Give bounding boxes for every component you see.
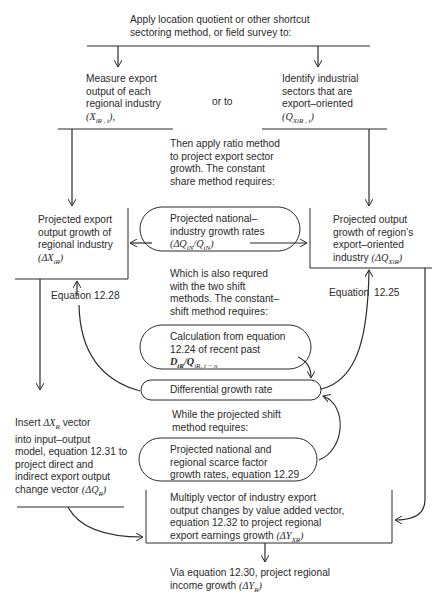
top-instruction: Apply location quotient or other shortcu… — [130, 14, 310, 39]
symbol-delta-q-xir: (ΔQXiR) — [372, 252, 403, 263]
measure-export-text: Measure export output of each regional i… — [86, 73, 161, 127]
curve-io-to-multiply — [68, 507, 143, 537]
multiply-box-text: Multiply vector of industry export outpu… — [170, 492, 344, 546]
ratio-method-text: Then apply ratio method to project expor… — [170, 138, 280, 188]
income-growth-text: Via equation 12.30, project regional inc… — [170, 567, 330, 596]
symbol-delta-x-r: ΔXR — [43, 417, 59, 428]
left-box-text: Projected export output growth of region… — [38, 214, 113, 268]
io-model-text: Insert ΔXR vector into input–output mode… — [15, 417, 127, 501]
equation-12-25-label-word: Equation — [329, 287, 369, 300]
curve-calc-to-diff — [298, 357, 311, 378]
equation-12-28-label: Equation 12.28 — [51, 290, 120, 303]
curve-differential-to-left-box — [79, 305, 140, 391]
symbol-d-ir-q-ir: DiR/QiR, t − n — [170, 356, 286, 373]
curve-scarce-to-diff — [319, 396, 340, 460]
shift-methods-text: Which is also requred with the two shift… — [170, 268, 279, 318]
symbol-national-rate: (ΔQiN/QiN) — [170, 238, 265, 255]
right-vertical-down — [395, 268, 425, 520]
symbol-delta-y-r: (ΔYR) — [239, 580, 262, 591]
differential-growth-rate-label: Differential growth rate — [170, 384, 272, 397]
identify-sectors-text: Identify industrial sectors that are exp… — [282, 73, 358, 127]
symbol-x-irt: (XiR , t), — [86, 111, 161, 128]
symbol-delta-q-r: (ΔQR) — [82, 484, 106, 495]
symbol-delta-x-ir: (ΔXiR) — [38, 252, 113, 269]
symbol-delta-y-xr: (ΔYXR) — [276, 530, 303, 541]
equation-12-25-label-number: 12.25 — [374, 287, 400, 300]
projected-shift-text: While the projected shift method require… — [172, 409, 281, 434]
or-to-label: or to — [212, 96, 232, 109]
calculation-text: Calculation from equation 12.24 of recen… — [170, 331, 286, 373]
national-rates-text: Projected national– industry growth rate… — [170, 213, 265, 255]
right-box-text: Projected output growth of region’s expo… — [333, 214, 413, 268]
scarce-factor-text: Projected national and regional scarce f… — [170, 444, 299, 482]
symbol-q-xirt: (QXiR , t) — [282, 111, 358, 128]
